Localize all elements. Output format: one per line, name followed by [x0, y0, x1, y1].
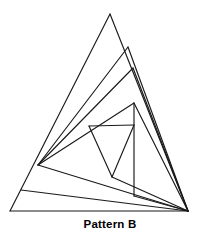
inner-left-edge: [89, 126, 112, 177]
left-fan-group: [21, 47, 188, 211]
rib-low-to-bottom-right: [134, 103, 188, 211]
inner-triangle-group: [89, 125, 188, 211]
figure-caption: Pattern B: [0, 217, 220, 231]
outer-left-edge: [10, 14, 110, 211]
pattern-b-drawing: [0, 0, 220, 236]
inner-top-edge: [89, 125, 134, 126]
left-fan-to-bottom-right: [38, 165, 188, 211]
spiral-chord-1: [38, 47, 128, 165]
vertical-rib-foot: [134, 196, 188, 211]
inner-right-edge: [112, 125, 134, 177]
spiral-chord-2: [38, 68, 133, 165]
pattern-figure: Pattern B: [0, 0, 220, 236]
right-rib-group: [128, 47, 188, 211]
spiral-chord-3: [38, 103, 134, 165]
lower-left-to-bottom-right: [21, 190, 188, 211]
outer-triangle-group: [10, 14, 188, 211]
